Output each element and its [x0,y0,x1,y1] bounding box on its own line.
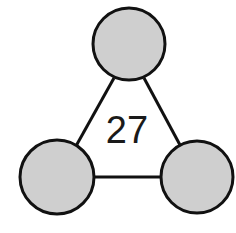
circle-bottom-left [20,140,94,214]
edge-top-bottom-right [144,78,180,145]
number-triangle-diagram: 27 [0,0,236,233]
node-top [93,8,165,80]
center-value: 27 [106,109,148,151]
node-bottom-left [20,140,94,214]
circle-top [93,8,165,80]
circle-bottom-right [161,141,233,213]
node-bottom-right [161,141,233,213]
